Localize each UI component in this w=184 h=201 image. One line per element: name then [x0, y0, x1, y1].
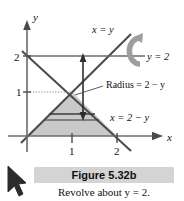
radius-leader-line [75, 86, 103, 95]
caption-text: Revolve about y = 2. [58, 186, 150, 198]
x-axis-arrowhead [152, 132, 163, 140]
label-line-x-equals-2-minus-y: x = 2 − y [109, 112, 150, 123]
label-line-y-equals-2: y = 2 [146, 51, 170, 62]
caption-title: Figure 5.32b [72, 169, 137, 181]
rotation-arrow-icon [129, 33, 143, 64]
label-radius: Radius = 2 − y [106, 79, 165, 90]
figure-panel: y x 2 1 1 2 x = y y = 2 Radius = 2 − y x… [0, 0, 184, 201]
mouse-pointer-icon [8, 166, 26, 196]
x-tick-label-1: 1 [69, 145, 75, 157]
y-tick-label-2: 2 [14, 51, 20, 63]
radius-arrowhead-up [80, 53, 87, 62]
y-tick-label-1: 1 [16, 86, 22, 98]
figure-graphic: y x 2 1 1 2 x = y y = 2 Radius = 2 − y x… [0, 0, 184, 201]
axis-label-y: y [32, 11, 38, 23]
y-axis-arrowhead [23, 20, 31, 30]
x-tick-label-2: 2 [114, 145, 120, 157]
label-line-x-equals-y: x = y [91, 24, 114, 35]
axis-label-x: x [166, 131, 172, 143]
